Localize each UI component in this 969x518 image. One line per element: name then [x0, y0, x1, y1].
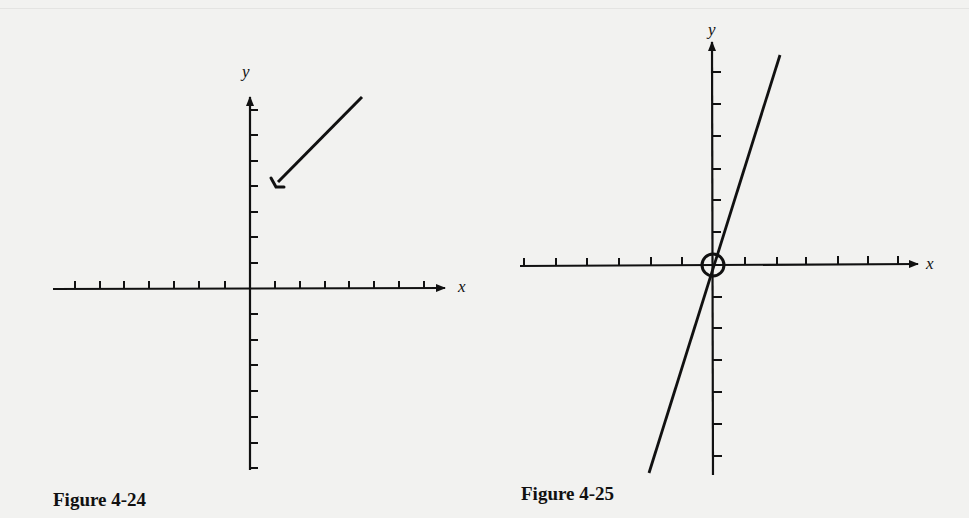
figure-4-24-graph	[53, 97, 445, 470]
y-axis	[712, 42, 713, 475]
fig-4-24-y-axis-label: y	[242, 62, 250, 82]
x-axis	[520, 264, 918, 266]
fig-4-25-x-axis-label: x	[926, 254, 934, 274]
figure-4-25-caption: Figure 4-25	[521, 483, 614, 505]
figures-canvas	[0, 0, 969, 518]
figure-4-25-graph	[520, 42, 918, 475]
fig-4-25-y-axis-label: y	[708, 20, 716, 40]
figure-4-24-caption: Figure 4-24	[53, 489, 146, 511]
pointer-arrow-icon	[271, 97, 362, 187]
fig-4-24-x-axis-label: x	[458, 277, 466, 297]
